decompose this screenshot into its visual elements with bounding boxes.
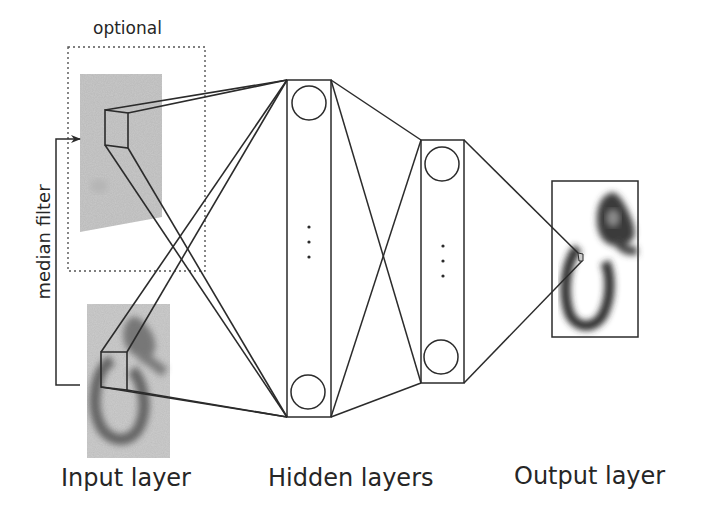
ellipsis-dots xyxy=(441,244,444,277)
output-image xyxy=(552,181,638,337)
hidden-layer-1 xyxy=(287,80,331,417)
median-filter-label: median filter xyxy=(33,184,54,299)
ellipsis-dots xyxy=(307,225,310,258)
input-layer-label: Input layer xyxy=(61,464,191,492)
hidden-layers-label: Hidden layers xyxy=(268,464,434,492)
raw-input-image xyxy=(87,304,170,458)
neural-network-diagram xyxy=(0,0,717,528)
hidden-connections xyxy=(331,80,421,417)
optional-label: optional xyxy=(93,18,162,38)
neuron-bottom xyxy=(291,375,325,409)
neuron-top xyxy=(292,86,326,120)
neuron-top xyxy=(425,147,459,181)
output-layer-label: Output layer xyxy=(514,462,665,490)
hidden-layer-2 xyxy=(421,140,464,383)
filtered-input-image xyxy=(80,74,162,232)
neuron-bottom xyxy=(424,340,458,374)
